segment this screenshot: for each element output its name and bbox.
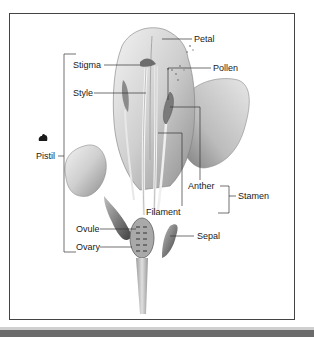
pistil-marker-icon <box>38 133 48 142</box>
ovary-shape <box>130 218 154 258</box>
sepal-left <box>104 196 132 240</box>
label-anther: Anther <box>188 181 215 191</box>
label-sepal: Sepal <box>197 231 220 241</box>
stem <box>136 258 148 314</box>
sepal-right <box>162 224 178 258</box>
label-stigma: Stigma <box>73 60 101 70</box>
label-pistil: Pistil <box>36 151 55 161</box>
flower-illustration <box>0 0 314 337</box>
bottom-divider <box>0 330 314 337</box>
label-ovule: Ovule <box>76 224 100 234</box>
petal-left <box>65 145 106 196</box>
label-filament: Filament <box>146 207 181 217</box>
label-style: Style <box>73 88 93 98</box>
label-petal: Petal <box>194 34 215 44</box>
label-pollen: Pollen <box>213 63 238 73</box>
label-ovary: Ovary <box>76 242 100 252</box>
label-stamen: Stamen <box>238 191 269 201</box>
